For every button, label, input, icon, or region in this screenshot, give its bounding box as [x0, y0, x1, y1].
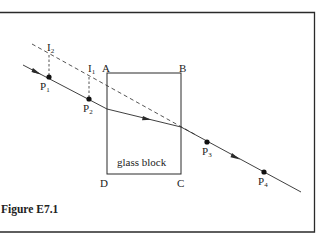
- pin-p1-dot: [46, 74, 51, 79]
- corner-label-c: C: [177, 178, 184, 189]
- image-label-i2: I2: [47, 42, 54, 55]
- figure-caption: Figure E7.1: [1, 203, 58, 215]
- corner-label-a: A: [102, 63, 110, 74]
- corner-label-d: D: [100, 178, 108, 189]
- pin-p4-dot: [261, 169, 266, 174]
- corner-label-b: B: [179, 63, 186, 74]
- pin-label-p3: P3: [202, 146, 212, 159]
- pin-label-p2: P2: [83, 103, 93, 116]
- pin-label-p4: P4: [258, 176, 268, 189]
- apparent-ray-dashed: [32, 44, 196, 135]
- arrow-icon-incident-head: [32, 68, 42, 75]
- emergent-ray: [181, 127, 301, 192]
- glass-block-label: glass block: [117, 156, 166, 168]
- arrow-icon-emergent: [231, 153, 241, 160]
- image-label-i1: I1: [88, 63, 95, 76]
- pin-p2-dot: [86, 96, 91, 101]
- pin-label-p1: P1: [40, 81, 50, 94]
- pin-p3-dot: [204, 139, 209, 144]
- arrow-icon-refracted: [142, 116, 151, 120]
